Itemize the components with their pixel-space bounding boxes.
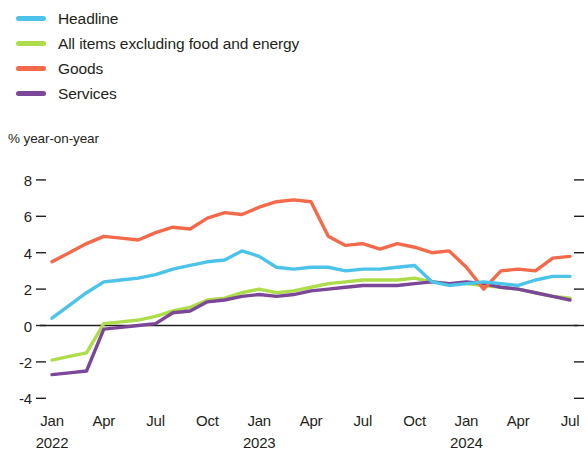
chart-container: Headline All items excluding food and en…: [0, 0, 587, 462]
y-axis-tick-label: 6: [2, 208, 32, 225]
x-axis-year-label: 2022: [36, 434, 69, 451]
x-axis-tick-label: Jan: [40, 412, 64, 429]
x-axis-tick-label: Jul: [146, 412, 165, 429]
y-axis-tick-label: 2: [2, 281, 32, 298]
plot-area: 86420-2-4 Jan2022AprJulOctJan2023AprJulO…: [0, 0, 587, 462]
y-axis-tick-label: 0: [2, 317, 32, 334]
x-axis-year-label: 2024: [450, 434, 483, 451]
x-axis-tick-label: Oct: [403, 412, 426, 429]
series-line-services: [52, 282, 570, 375]
x-axis-tick-label: Apr: [507, 412, 530, 429]
x-axis-tick-label: Jan: [247, 412, 271, 429]
x-axis-tick-label: Oct: [196, 412, 219, 429]
x-axis-tick-label: Apr: [300, 412, 323, 429]
x-axis-tick-label: Jul: [354, 412, 373, 429]
y-axis-tick-label: -4: [2, 390, 32, 407]
x-axis-tick-label: Apr: [92, 412, 115, 429]
y-axis-tick-label: -2: [2, 353, 32, 370]
series-line-goods: [52, 200, 570, 289]
y-axis-tick-label: 4: [2, 244, 32, 261]
x-axis-tick-label: Jan: [455, 412, 479, 429]
x-axis-tick-label: Jul: [561, 412, 580, 429]
y-axis-tick-label: 8: [2, 171, 32, 188]
x-axis-year-label: 2023: [243, 434, 276, 451]
chart-svg: [0, 0, 587, 462]
